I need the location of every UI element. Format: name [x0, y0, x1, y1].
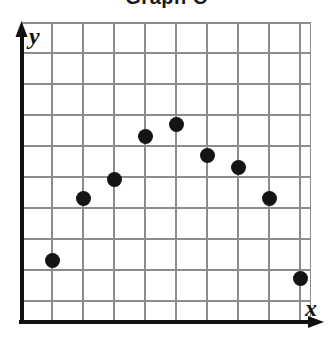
data-point [293, 271, 308, 286]
plot-area [21, 22, 311, 322]
data-point [45, 253, 60, 268]
chart-title: Graph C [0, 0, 333, 7]
y-axis-label: y [29, 24, 40, 48]
data-point [262, 191, 277, 206]
data-points [21, 22, 311, 322]
data-point [231, 160, 246, 175]
chart-figure: Graph C [0, 0, 333, 351]
data-point [169, 117, 184, 132]
data-point [76, 191, 91, 206]
data-point [107, 172, 122, 187]
data-point [200, 148, 215, 163]
data-point [138, 129, 153, 144]
x-axis-label: x [305, 296, 317, 320]
